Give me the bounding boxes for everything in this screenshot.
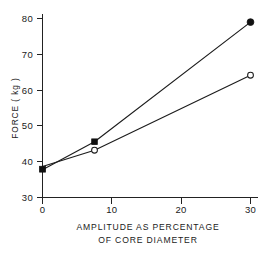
series-filled-line — [43, 22, 251, 170]
y-tick-label-50: 50 — [22, 120, 33, 131]
y-tick-label-40: 40 — [22, 156, 33, 167]
x-tick-label-30: 30 — [245, 204, 256, 215]
x-tick-label-10: 10 — [106, 204, 117, 215]
x-tick-label-20: 20 — [176, 204, 187, 215]
series-filled-markers — [40, 19, 254, 172]
x-axis-caption-line2: OF CORE DIAMETER — [98, 235, 198, 245]
y-tick-label-30: 30 — [22, 192, 33, 203]
data-point-filled-30 — [247, 19, 254, 26]
x-tick-group — [43, 198, 251, 204]
data-point-filled-0 — [40, 166, 46, 172]
data-point-filled-7p5 — [92, 139, 98, 145]
data-point-open-30 — [248, 72, 254, 78]
force-amplitude-chart: 80 70 60 50 40 30 0 10 20 30 FORCE ( kg … — [0, 0, 273, 254]
data-point-open-7p5 — [92, 147, 98, 153]
x-axis-caption-line1: AMPLITUDE AS PERCENTAGE — [76, 222, 219, 232]
y-axis-title: FORCE ( kg ) — [10, 77, 20, 139]
x-tick-label-0: 0 — [40, 204, 46, 215]
y-tick-label-70: 70 — [22, 49, 33, 60]
y-tick-label-60: 60 — [22, 85, 33, 96]
figure-container: 80 70 60 50 40 30 0 10 20 30 FORCE ( kg … — [0, 0, 273, 254]
y-tick-label-80: 80 — [22, 13, 33, 24]
